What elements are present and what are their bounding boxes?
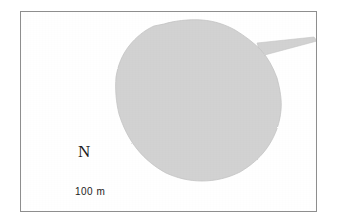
northeast-spur xyxy=(257,37,317,56)
map-drawing-canvas xyxy=(21,12,317,212)
figure-root: N 100 m xyxy=(0,0,338,224)
north-arrow-label: N xyxy=(78,143,90,160)
scale-bar-label: 100 m xyxy=(75,187,105,197)
shaded-enclosure-area xyxy=(116,20,282,181)
map-frame-border: N 100 m xyxy=(20,11,317,212)
